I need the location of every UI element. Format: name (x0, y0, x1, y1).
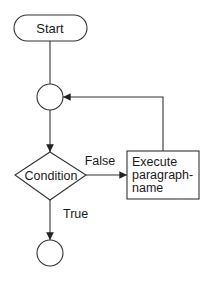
execute-line-3: name (132, 181, 163, 195)
connector-circle-end (37, 240, 63, 266)
execute-line-1: Execute (132, 155, 177, 169)
start-terminal: Start (14, 15, 87, 41)
connector-circle-top (37, 84, 63, 110)
condition-label: Condition (25, 169, 78, 183)
true-label: True (63, 207, 88, 221)
start-label: Start (36, 21, 64, 36)
execute-line-2: paragraph- (132, 168, 193, 182)
flowchart: Start Condition False Execute paragraph-… (0, 0, 207, 284)
condition-decision: Condition (15, 152, 86, 200)
edge-loop-back-to-connector (63, 97, 163, 151)
false-label: False (85, 154, 116, 168)
execute-process-box: Execute paragraph- name (127, 151, 199, 199)
